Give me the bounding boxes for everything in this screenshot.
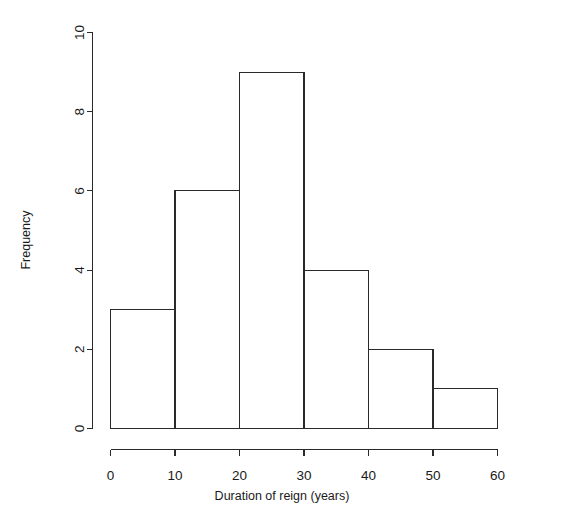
x-tick-label: 30 <box>296 468 311 483</box>
x-tick-label: 50 <box>425 468 440 483</box>
y-tick-label: 6 <box>72 187 87 195</box>
x-tick-label: 20 <box>232 468 247 483</box>
y-tick-label: 2 <box>72 346 87 354</box>
y-tick-label: 4 <box>72 266 87 274</box>
histogram-bar <box>433 389 498 429</box>
histogram-plot: 0246810 0102030405060 Duration of reign … <box>0 0 564 532</box>
histogram-figure: 0246810 0102030405060 Duration of reign … <box>0 0 564 532</box>
x-tick-label: 10 <box>167 468 182 483</box>
histogram-bar <box>111 310 176 429</box>
x-axis-title: Duration of reign (years) <box>215 489 350 503</box>
x-tick-label: 0 <box>107 468 115 483</box>
x-tick-label: 60 <box>490 468 505 483</box>
histogram-bar <box>369 349 434 428</box>
y-axis-title: Frequency <box>19 210 33 270</box>
histogram-bar <box>175 191 240 429</box>
y-tick-label: 10 <box>72 25 87 40</box>
histogram-bar <box>240 72 305 428</box>
histogram-bar <box>304 270 369 428</box>
y-tick-label: 0 <box>72 425 87 433</box>
x-tick-label: 40 <box>361 468 376 483</box>
y-tick-label: 8 <box>72 108 87 116</box>
